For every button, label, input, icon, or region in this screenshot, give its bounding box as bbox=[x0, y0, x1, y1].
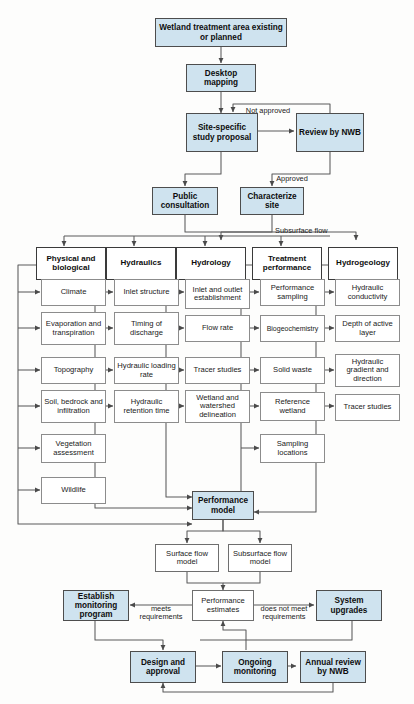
item-wetland-and-watershed-delineation[interactable]: Wetland and watershed delineation bbox=[185, 390, 250, 423]
item-performance-sampling[interactable]: Performance sampling bbox=[260, 279, 325, 306]
item-label: Sampling locations bbox=[263, 440, 322, 457]
column-header-label: Hydraulics bbox=[109, 259, 173, 268]
node-performance-estimates-label: Performance estimates bbox=[195, 597, 251, 614]
item-label: Topography bbox=[44, 366, 103, 375]
node-performance-estimates[interactable]: Performance estimates bbox=[192, 590, 254, 621]
item-label: Inlet and outlet establishment bbox=[188, 286, 247, 303]
column-header-physical-and-biological[interactable]: Physical and biological bbox=[36, 247, 106, 280]
column-header-hydrogeology[interactable]: Hydrogeology bbox=[328, 247, 398, 280]
item-label: Solid waste bbox=[263, 366, 322, 375]
item-label: Depth of active layer bbox=[338, 320, 397, 337]
node-surface-flow-model-label: Surface flow model bbox=[158, 550, 216, 567]
node-design-and-approval[interactable]: Design and approval bbox=[130, 651, 196, 683]
item-solid-waste[interactable]: Solid waste bbox=[260, 357, 325, 384]
item-label: Tracer studies bbox=[338, 403, 397, 412]
item-label: Wildlife bbox=[44, 486, 103, 495]
item-evaporation-and-transpiration[interactable]: Evaporation and transpiration bbox=[41, 312, 106, 345]
item-label: Hydraulic loading rate bbox=[117, 362, 176, 379]
edge-label-meets-requirements: meets requirements bbox=[130, 596, 192, 622]
node-characterize-site-label: Characterize site bbox=[243, 192, 301, 210]
item-label: Climate bbox=[44, 288, 103, 297]
item-label: Evaporation and transpiration bbox=[44, 320, 103, 337]
node-performance-model[interactable]: Performance model bbox=[192, 491, 254, 520]
edge-label-approved: Approved bbox=[266, 166, 318, 183]
item-label: Vegetation assessment bbox=[44, 440, 103, 457]
edge-label-does-not-meet-requirements: does not meet requirements bbox=[252, 596, 316, 622]
item-wildlife[interactable]: Wildlife bbox=[41, 477, 106, 504]
item-timing-of-discharge[interactable]: Timing of discharge bbox=[114, 312, 179, 345]
node-characterize-site[interactable]: Characterize site bbox=[240, 187, 304, 215]
node-establish-monitoring-program[interactable]: Establish monitoring program bbox=[63, 590, 129, 621]
node-desktop-mapping-label: Desktop mapping bbox=[189, 69, 253, 87]
column-header-label: Hydrology bbox=[179, 259, 243, 268]
column-header-label: Hydrogeology bbox=[331, 259, 395, 268]
node-subsurface-flow-model[interactable]: Subsurface flow model bbox=[228, 544, 292, 572]
node-public-consultation[interactable]: Public consultation bbox=[152, 187, 218, 215]
item-label: Flow rate bbox=[188, 324, 247, 333]
node-system-upgrades[interactable]: System upgrades bbox=[316, 590, 382, 621]
edge-label-subsurface-flow: Subsurface flow bbox=[275, 218, 359, 235]
node-subsurface-flow-model-label: Subsurface flow model bbox=[231, 550, 289, 567]
item-climate[interactable]: Climate bbox=[41, 279, 106, 306]
item-label: Biogeochemistry bbox=[263, 325, 322, 333]
node-surface-flow-model[interactable]: Surface flow model bbox=[155, 544, 219, 572]
node-annual-review-label: Annual review by NWB bbox=[303, 658, 363, 676]
node-establish-monitoring-label: Establish monitoring program bbox=[66, 592, 126, 620]
column-header-hydrology[interactable]: Hydrology bbox=[176, 247, 246, 280]
item-label: Performance sampling bbox=[263, 284, 322, 301]
node-performance-model-label: Performance model bbox=[195, 496, 251, 514]
edge-label-does-not-meet-text: does not meet requirements bbox=[261, 604, 308, 622]
node-system-upgrades-label: System upgrades bbox=[319, 596, 379, 614]
item-hydraulic-loading-rate[interactable]: Hydraulic loading rate bbox=[114, 357, 179, 384]
item-tracer-studies-hydrology[interactable]: Tracer studies bbox=[185, 357, 250, 384]
item-tracer-studies-hydrogeology[interactable]: Tracer studies bbox=[335, 394, 400, 421]
node-desktop-mapping[interactable]: Desktop mapping bbox=[186, 64, 256, 92]
item-label: Inlet structure bbox=[117, 288, 176, 297]
node-public-consultation-label: Public consultation bbox=[155, 192, 215, 210]
item-soil-bedrock-and-infiltration[interactable]: Soil, bedrock and infiltration bbox=[41, 390, 106, 423]
edge-label-subsurface-flow-text: Subsurface flow bbox=[275, 226, 328, 235]
column-header-label: Physical and biological bbox=[39, 255, 103, 273]
item-label: Tracer studies bbox=[188, 366, 247, 375]
node-ongoing-monitoring[interactable]: Ongoing monitoring bbox=[222, 651, 288, 683]
item-inlet-structure[interactable]: Inlet structure bbox=[114, 279, 179, 306]
item-topography[interactable]: Topography bbox=[41, 357, 106, 384]
edge-label-not-approved-text: Not approved bbox=[246, 106, 290, 115]
node-start-label: Wetland treatment area existing or plann… bbox=[158, 23, 284, 41]
node-review-by-nwb-label: Review by NWB bbox=[299, 128, 361, 137]
edge-label-meets-requirements-text: meets requirements bbox=[139, 604, 182, 622]
item-sampling-locations[interactable]: Sampling locations bbox=[260, 434, 325, 463]
item-label: Soil, bedrock and infiltration bbox=[44, 398, 103, 415]
node-site-specific-study-proposal[interactable]: Site-specific study proposal bbox=[186, 113, 258, 152]
item-reference-wetland[interactable]: Reference wetland bbox=[260, 392, 325, 421]
node-review-by-nwb[interactable]: Review by NWB bbox=[296, 113, 364, 152]
node-start[interactable]: Wetland treatment area existing or plann… bbox=[155, 18, 287, 47]
node-design-and-approval-label: Design and approval bbox=[133, 658, 193, 676]
item-hydraulic-conductivity[interactable]: Hydraulic conductivity bbox=[335, 279, 400, 306]
column-header-treatment-performance[interactable]: Treatment performance bbox=[252, 247, 322, 280]
item-label: Timing of discharge bbox=[117, 320, 176, 337]
edge-label-not-approved: Not approved bbox=[238, 98, 298, 115]
item-biogeochemistry[interactable]: Biogeochemistry bbox=[260, 315, 325, 342]
column-header-hydraulics[interactable]: Hydraulics bbox=[106, 247, 176, 280]
flowchart-diagram: Wetland treatment area existing or plann… bbox=[0, 0, 414, 704]
item-label: Hydraulic conductivity bbox=[338, 284, 397, 301]
item-label: Reference wetland bbox=[263, 398, 322, 415]
node-site-specific-label: Site-specific study proposal bbox=[189, 123, 255, 141]
item-flow-rate[interactable]: Flow rate bbox=[185, 315, 250, 342]
item-inlet-and-outlet-establishment[interactable]: Inlet and outlet establishment bbox=[185, 279, 250, 309]
item-label: Hydraulic gradient and direction bbox=[338, 358, 397, 384]
item-depth-of-active-layer[interactable]: Depth of active layer bbox=[335, 315, 400, 342]
node-ongoing-monitoring-label: Ongoing monitoring bbox=[225, 658, 285, 676]
edge-label-approved-text: Approved bbox=[276, 174, 308, 183]
item-hydraulic-gradient-and-direction[interactable]: Hydraulic gradient and direction bbox=[335, 354, 400, 387]
item-label: Hydraulic retention time bbox=[117, 398, 176, 415]
node-annual-review-by-nwb[interactable]: Annual review by NWB bbox=[300, 651, 366, 683]
item-label: Wetland and watershed delineation bbox=[188, 394, 247, 420]
column-header-label: Treatment performance bbox=[255, 255, 319, 273]
item-vegetation-assessment[interactable]: Vegetation assessment bbox=[41, 434, 106, 463]
item-hydraulic-retention-time[interactable]: Hydraulic retention time bbox=[114, 390, 179, 423]
